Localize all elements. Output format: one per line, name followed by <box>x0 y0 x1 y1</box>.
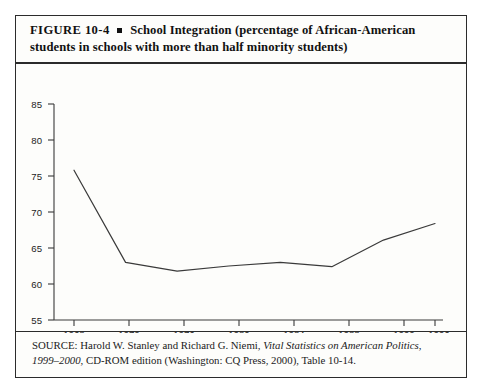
source-suffix: CD-ROM edition (Washington: CQ Press, 20… <box>83 354 356 366</box>
y-tick-label-65: 65 <box>31 243 42 254</box>
chart-axes <box>54 104 443 320</box>
y-tick-label-85: 85 <box>31 99 42 110</box>
figure-title-text-1: School Integration (percentage of Africa… <box>130 23 415 37</box>
y-tick-label-60: 60 <box>31 279 42 290</box>
source-line-1: SOURCE: Harold W. Stanley and Richard G.… <box>32 338 450 353</box>
source-prefix: SOURCE: Harold W. Stanley and Richard G.… <box>32 339 261 351</box>
line-chart-svg: 85 80 75 70 65 60 55 1968 1972 <box>16 63 468 333</box>
y-tick-label-80: 80 <box>31 135 42 146</box>
figure-title-block: FIGURE 10-4 School Integration (percenta… <box>16 16 466 60</box>
y-tick-label-75: 75 <box>31 171 42 182</box>
source-work-title: Vital Statistics on American Politics, <box>263 339 421 351</box>
figure-title-line-1: FIGURE 10-4 School Integration (percenta… <box>30 22 452 39</box>
data-series-line <box>74 170 435 271</box>
y-axis-tick-labels: 85 80 75 70 65 60 55 <box>31 99 42 326</box>
source-note: SOURCE: Harold W. Stanley and Richard G.… <box>16 332 466 377</box>
chart-area: 85 80 75 70 65 60 55 1968 1972 <box>16 63 468 333</box>
y-tick-label-70: 70 <box>31 207 42 218</box>
x-axis-ticks <box>74 320 435 326</box>
y-axis-ticks <box>48 104 54 320</box>
figure-number-label: FIGURE 10-4 <box>30 23 110 37</box>
figure-title-line-2: students in schools with more than half … <box>30 39 452 56</box>
square-bullet-icon <box>117 28 122 33</box>
figure-frame: FIGURE 10-4 School Integration (percenta… <box>15 15 467 378</box>
source-years: 1999–2000, <box>32 354 83 366</box>
y-tick-label-55: 55 <box>31 315 42 326</box>
source-line-2: 1999–2000, CD-ROM edition (Washington: C… <box>32 353 450 368</box>
